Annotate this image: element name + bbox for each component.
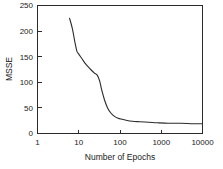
y-tick-label: 150 [20,53,34,62]
plot-frame [38,6,203,134]
x-tick-label: 100 [113,138,127,147]
x-axis-ticks [38,130,203,134]
msse-curve [70,18,203,124]
x-tick-label: 10 [74,138,83,147]
x-tick-label: 1000 [152,138,170,147]
y-axis-title: MSSE [4,57,14,81]
y-tick-label: 100 [20,78,34,87]
x-axis-title: Number of Epochs [85,152,155,162]
y-tick-label: 250 [20,1,34,10]
x-axis-tick-labels: 1 10 100 1000 10000 [35,138,214,147]
y-axis-tick-labels: 0 50 100 150 200 250 [20,1,34,138]
x-tick-label: 1 [35,138,40,147]
x-tick-label: 10000 [191,138,214,147]
y-tick-label: 200 [20,27,34,36]
data-series-group [70,18,203,124]
msse-vs-epochs-line-chart: 0 50 100 150 200 250 1 10 100 1000 10000 [0,0,223,169]
y-tick-label: 0 [29,129,34,138]
chart-container: 0 50 100 150 200 250 1 10 100 1000 10000 [0,0,223,169]
y-axis-ticks [38,6,42,134]
y-tick-label: 50 [24,104,33,113]
